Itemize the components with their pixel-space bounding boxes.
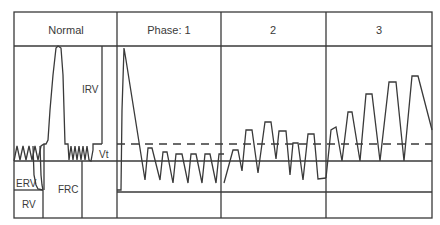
normal-trace (14, 46, 102, 161)
lung-volume-phases-diagram: Normal Phase: 1 2 3 IRV Vt ERV RV FRC (0, 0, 440, 225)
phase-2-trace (224, 122, 326, 183)
column-header-normal: Normal (48, 24, 83, 36)
column-header-phase-1: Phase: 1 (147, 24, 190, 36)
erv-label: ERV (16, 178, 37, 189)
column-header-phase-2: 2 (270, 24, 276, 36)
irv-label: IRV (82, 84, 99, 95)
column-header-phase-3: 3 (376, 24, 382, 36)
frc-label: FRC (58, 184, 79, 195)
rv-label: RV (22, 199, 36, 210)
phase-3-trace (326, 76, 432, 178)
erv-dip-trace-2 (40, 146, 43, 190)
vt-label: Vt (99, 149, 109, 160)
phase-1-trace (117, 48, 224, 190)
